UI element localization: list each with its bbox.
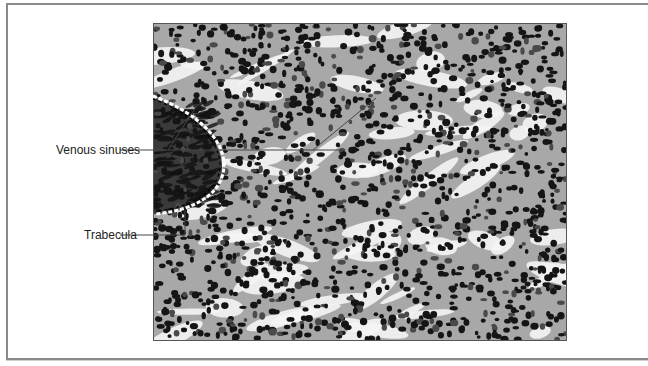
label-venous-sinuses: Venous sinuses bbox=[56, 143, 140, 157]
micrograph-image bbox=[153, 23, 567, 341]
tissue-texture bbox=[154, 24, 566, 340]
label-trabecula: Trabecula bbox=[84, 228, 137, 242]
